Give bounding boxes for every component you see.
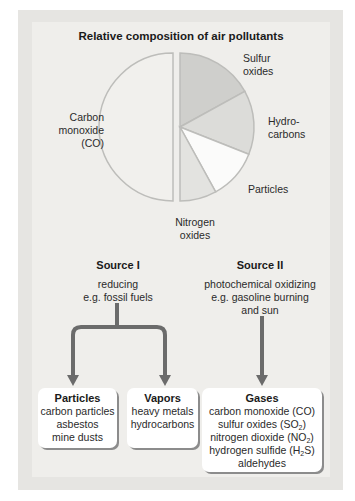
box-item-text: ) <box>302 418 306 430</box>
box-item: carbon monoxide (CO) <box>202 405 322 418</box>
box-item-text: S) <box>304 444 315 456</box>
box-item-text: aldehydes <box>238 457 286 469</box>
box-item: asbestos <box>38 418 117 431</box>
box-item-text: hydrogen sulfide (H <box>209 444 300 456</box>
box-particles: Particles carbon particles asbestos mine… <box>38 388 117 448</box>
box-item-text: ) <box>310 431 314 443</box>
box-item-text: nitrogen dioxide (NO <box>210 431 306 443</box>
box-vapors: Vapors heavy metals hydrocarbons <box>127 388 198 448</box>
box-vapors-title: Vapors <box>127 392 198 405</box>
arrow-head-gases <box>256 375 268 386</box>
box-item: carbon particles <box>38 405 117 418</box>
box-item: nitrogen dioxide (NO2) <box>202 431 322 444</box>
box-item: hydrocarbons <box>127 418 198 431</box>
box-item: sulfur oxides (SO2) <box>202 418 322 431</box>
box-item: hydrogen sulfide (H2S) <box>202 444 322 457</box>
box-gases-title: Gases <box>202 392 322 405</box>
box-gases: Gases carbon monoxide (CO) sulfur oxides… <box>202 388 322 472</box>
box-item: heavy metals <box>127 405 198 418</box>
arrow-head-particles <box>67 375 79 386</box>
box-item-text: sulfur oxides (SO <box>218 418 299 430</box>
arrow-head-vapors <box>159 375 171 386</box>
box-item: mine dusts <box>38 431 117 444</box>
box-item-text: carbon monoxide (CO) <box>209 405 315 417</box>
box-particles-title: Particles <box>38 392 117 405</box>
source-1-branch-arrow <box>73 303 165 378</box>
box-item: aldehydes <box>202 457 322 470</box>
